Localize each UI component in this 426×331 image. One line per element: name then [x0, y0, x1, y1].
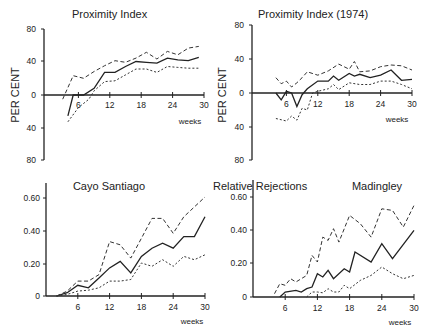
x-tick-label: 30	[409, 303, 419, 313]
x-tick-label: 18	[137, 302, 147, 312]
x-tick-label: 6	[75, 302, 80, 312]
y-tick-label: 0.40	[23, 226, 40, 236]
chart-title: Cayo Santiago	[73, 180, 145, 192]
chart-panel-proximity-index-1974: Proximity Index (1974)804004080612182430…	[235, 8, 417, 165]
x-tick-label: 18	[136, 100, 146, 110]
y-tick-label: 40	[27, 56, 37, 66]
series-lower	[68, 67, 199, 122]
y-axis-label-per-cent-1974: PER CENT	[216, 67, 228, 123]
y-tick-label: 80	[27, 155, 37, 165]
series-lower	[307, 267, 414, 297]
y-tick-label: 80	[235, 155, 245, 165]
chart-panel-cayo-santiago: Cayo Santiago0.600.400.200612182430weeks	[23, 180, 210, 326]
x-tick-label: 24	[376, 99, 386, 109]
series-upper	[276, 62, 412, 88]
x-tick-label: 6	[284, 99, 289, 109]
x-tick-label: 24	[377, 303, 387, 313]
chart-figure: Proximity Index804004080612182430weeksPr…	[0, 0, 426, 331]
chart-panel-madingley: Madingley0.600.400.200612182430weeks	[230, 180, 419, 327]
x-tick-label: 12	[105, 100, 115, 110]
x-tick-label: 24	[168, 100, 178, 110]
y-tick-label: 0.20	[23, 259, 40, 269]
chart-title: Proximity Index	[72, 8, 148, 20]
series-upper	[57, 197, 205, 296]
y-tick-label: 0	[35, 291, 40, 301]
x-tick-label: 6	[283, 303, 288, 313]
x-tick-label: 6	[76, 100, 81, 110]
chart-panel-proximity-index: Proximity Index804004080612182430weeks	[27, 8, 209, 165]
x-tick-label: 30	[407, 99, 417, 109]
y-tick-label: 0.60	[230, 192, 247, 202]
y-tick-label: 0	[31, 90, 36, 100]
y-tick-label: 80	[235, 20, 245, 30]
series-upper	[275, 205, 415, 293]
y-tick-label: 0.60	[23, 193, 40, 203]
chart-title: Madingley	[352, 180, 403, 192]
x-tick-label: 30	[200, 302, 210, 312]
series-median	[57, 217, 205, 296]
y-tick-label: 0	[242, 292, 247, 302]
y-axis-label-per-cent: PER CENT	[9, 67, 21, 123]
x-tick-label: 18	[344, 99, 354, 109]
y-tick-label: 40	[235, 54, 245, 64]
series-upper	[63, 46, 199, 99]
relative-rejections-label: Relative Rejections	[213, 180, 308, 192]
chart-title: Proximity Index (1974)	[258, 8, 368, 20]
y-tick-label: 80	[27, 24, 37, 34]
y-tick-label: 0	[239, 88, 244, 98]
x-axis-label: weeks	[178, 117, 202, 126]
x-axis-label: weeks	[388, 318, 412, 327]
x-tick-label: 12	[313, 99, 323, 109]
y-tick-label: 40	[27, 123, 37, 133]
series-median	[68, 57, 199, 116]
series-lower	[57, 255, 205, 296]
x-axis-label: weeks	[180, 317, 204, 326]
y-tick-label: 0.40	[230, 225, 247, 235]
x-tick-label: 18	[345, 303, 355, 313]
x-tick-label: 24	[168, 302, 178, 312]
x-axis-label: weeks	[385, 115, 409, 124]
x-tick-label: 12	[313, 303, 323, 313]
x-tick-label: 30	[199, 100, 209, 110]
y-tick-label: 0.20	[230, 258, 247, 268]
y-tick-label: 40	[235, 122, 245, 132]
x-tick-label: 12	[105, 302, 115, 312]
